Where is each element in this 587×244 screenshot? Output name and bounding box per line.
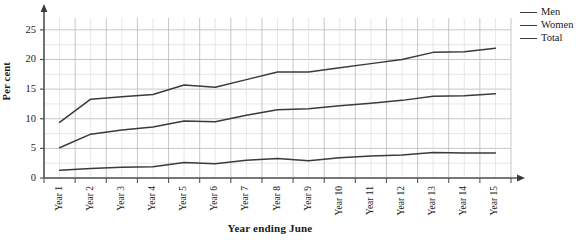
- legend-item-men[interactable]: Men: [520, 6, 586, 19]
- legend-line-swatch-icon: [520, 25, 537, 26]
- y-axis-arrow-icon: [41, 4, 48, 12]
- legend-line-swatch-icon: [520, 38, 537, 39]
- chart-legend: MenWomenTotal: [520, 6, 586, 45]
- legend-item-label: Men: [541, 7, 560, 18]
- legend-item-label: Total: [541, 33, 562, 44]
- x-axis-arrow-icon: [517, 175, 525, 182]
- plot-area: [0, 0, 587, 244]
- legend-item-label: Women: [541, 20, 573, 31]
- legend-line-swatch-icon: [520, 12, 537, 13]
- legend-item-women[interactable]: Women: [520, 19, 586, 32]
- line-chart: Per cent Year ending June 0510152025 Yea…: [0, 0, 587, 244]
- legend-item-total[interactable]: Total: [520, 32, 586, 45]
